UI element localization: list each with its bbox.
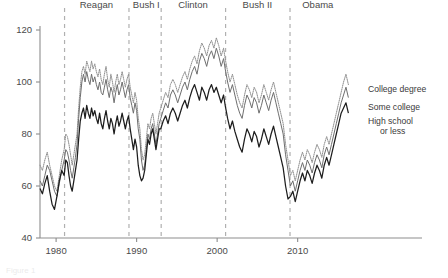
x-axis-tick-label: 1980 xyxy=(46,245,67,256)
y-axis-tick-label: 40 xyxy=(21,232,32,243)
y-axis-tick-label: 100 xyxy=(16,76,32,87)
chart-figure: ReaganBush IClintonBush IIObama 40608010… xyxy=(0,0,448,278)
legend-label-3: or less xyxy=(380,126,405,136)
y-axis-tick-label: 60 xyxy=(21,180,32,191)
presidential-term-label: Bush II xyxy=(243,0,273,10)
legend-label-1: Some college xyxy=(368,102,420,112)
x-axis-tick-label: 2010 xyxy=(287,245,308,256)
y-axis-tick-group: 406080100120 xyxy=(16,24,40,243)
legend-label-0: College degree xyxy=(368,84,427,94)
legend-label-2: High school xyxy=(368,116,413,126)
line-chart-canvas: ReaganBush IClintonBush IIObama 40608010… xyxy=(0,0,448,278)
y-axis-tick-label: 80 xyxy=(21,128,32,139)
x-axis-tick-label: 2000 xyxy=(207,245,228,256)
x-axis-tick-group: 1980199020002010 xyxy=(46,238,309,256)
data-series-group xyxy=(40,38,348,210)
presidential-term-label-group: ReaganBush IClintonBush IIObama xyxy=(80,0,334,10)
presidential-term-label: Reagan xyxy=(80,0,113,10)
presidential-term-label: Clinton xyxy=(178,0,208,10)
figure-caption-ghost: Figure 1 xyxy=(6,266,116,275)
x-axis-tick-label: 1990 xyxy=(126,245,147,256)
series-line-college-degree xyxy=(40,38,348,191)
presidential-term-label: Obama xyxy=(302,0,334,10)
presidential-term-label: Bush I xyxy=(133,0,160,10)
y-axis-tick-label: 120 xyxy=(16,24,32,35)
series-line-high-school-or-less xyxy=(40,85,348,210)
chart-legend: College degreeSome collegeHigh schoolor … xyxy=(368,84,427,136)
